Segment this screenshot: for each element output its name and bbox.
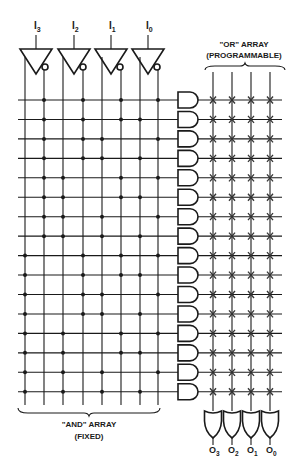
fixed-connection-dot [23, 331, 27, 335]
fixed-connection-dot [138, 117, 142, 121]
fixed-connection-dot [81, 98, 85, 102]
fixed-connection-dot [156, 370, 160, 374]
fixed-connection-dot [23, 273, 27, 277]
product-term-row [18, 189, 282, 205]
product-term-row [18, 111, 282, 127]
output-O3: O3 [205, 411, 222, 457]
fixed-connection-dot [61, 215, 65, 219]
fixed-connection-dot [81, 156, 85, 160]
fixed-connection-dot [42, 137, 46, 141]
fixed-connection-dot [138, 273, 142, 277]
input-buffers: I3I2I1I0 [20, 20, 164, 74]
product-term-row [18, 267, 282, 283]
product-term-row [18, 209, 282, 225]
fixed-connection-dot [119, 351, 123, 355]
inverter-bubble-icon [42, 64, 48, 70]
output-label: O0 [266, 445, 277, 457]
fixed-connection-dot [119, 117, 123, 121]
and-gate-icon [178, 306, 198, 322]
output-label: O3 [209, 445, 220, 457]
fixed-connection-dot [61, 331, 65, 335]
product-term-row [18, 325, 282, 341]
fixed-connection-dot [81, 312, 85, 316]
input-buffer-I0: I0 [132, 20, 164, 74]
inverter-bubble-icon [80, 64, 86, 70]
or-array-label: "OR" ARRAY [219, 40, 269, 49]
fixed-connection-dot [100, 312, 104, 316]
or-gate-icon [262, 411, 279, 438]
and-array-sublabel: (FIXED) [75, 432, 104, 441]
fixed-connection-dot [138, 351, 142, 355]
or-array: O3O2O1O0 [18, 63, 285, 457]
product-term-row [18, 384, 282, 400]
fixed-connection-dot [156, 293, 160, 297]
fixed-connection-dot [61, 234, 65, 238]
or-array-brace [205, 63, 285, 70]
fixed-connection-dot [100, 370, 104, 374]
fixed-connection-dot [138, 390, 142, 394]
and-gate-icon [178, 170, 198, 186]
fixed-connection-dot [23, 312, 27, 316]
and-gate-icon [178, 345, 198, 361]
and-array-label: "AND" ARRAY [62, 420, 117, 429]
fixed-connection-dot [42, 195, 46, 199]
fixed-connection-dot [42, 215, 46, 219]
and-gate-icon [178, 150, 198, 166]
fixed-connection-dot [156, 331, 160, 335]
fixed-connection-dot [156, 215, 160, 219]
or-array-sublabel: (PROGRAMMABLE) [206, 51, 282, 60]
fixed-connection-dot [119, 331, 123, 335]
fixed-connection-dot [100, 137, 104, 141]
and-gate-icon [178, 248, 198, 264]
and-gate-icon [178, 384, 198, 400]
and-gate-icon [178, 287, 198, 303]
fixed-connection-dot [81, 254, 85, 258]
product-term-row [18, 364, 282, 380]
fixed-connection-dot [119, 98, 123, 102]
fixed-connection-dot [119, 176, 123, 180]
fixed-connection-dot [138, 195, 142, 199]
and-gate-icon [178, 189, 198, 205]
fixed-connection-dot [100, 234, 104, 238]
output-label: O1 [247, 445, 258, 457]
prom-diagram: I3I2I1I0 O3O2O1O0 "OR" ARRAY (PROGRAMMAB… [0, 0, 304, 474]
output-label: O2 [228, 445, 239, 457]
fixed-connection-dot [23, 390, 27, 394]
fixed-connection-dot [23, 293, 27, 297]
fixed-connection-dot [100, 215, 104, 219]
product-term-row [18, 287, 282, 303]
fixed-connection-dot [61, 176, 65, 180]
product-term-row [18, 306, 282, 322]
product-term-row [18, 92, 282, 108]
product-term-row [18, 228, 282, 244]
input-label: I1 [109, 20, 116, 33]
fixed-connection-dot [61, 351, 65, 355]
fixed-connection-dot [42, 98, 46, 102]
and-gate-icon [178, 325, 198, 341]
and-array-brace [18, 408, 160, 416]
output-O0: O0 [262, 411, 279, 457]
fixed-connection-dot [42, 117, 46, 121]
input-buffer-I1: I1 [95, 20, 127, 74]
fixed-connection-dot [119, 195, 123, 199]
fixed-connection-dot [61, 195, 65, 199]
inverter-bubble-icon [154, 64, 160, 70]
input-label: I3 [34, 20, 41, 33]
product-term-row [18, 345, 282, 361]
fixed-connection-dot [100, 156, 104, 160]
fixed-connection-dot [81, 273, 85, 277]
or-gate-icon [224, 411, 241, 438]
buffer-triangle-icon [95, 49, 127, 74]
fixed-connection-dot [100, 293, 104, 297]
and-gate-icon [178, 364, 198, 380]
product-term-row [18, 170, 282, 186]
input-label: I2 [72, 20, 79, 33]
and-array [18, 57, 282, 405]
fixed-connection-dot [61, 370, 65, 374]
and-gate-icon [178, 111, 198, 127]
fixed-connection-dot [23, 254, 27, 258]
fixed-connection-dot [156, 98, 160, 102]
fixed-connection-dot [119, 254, 123, 258]
fixed-connection-dot [42, 156, 46, 160]
fixed-connection-dot [119, 273, 123, 277]
